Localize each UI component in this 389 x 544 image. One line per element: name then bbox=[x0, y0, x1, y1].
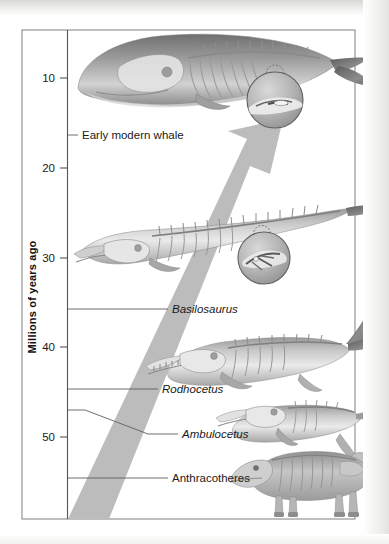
label-anthracotheres: Anthracotheres bbox=[172, 472, 250, 484]
basilosaurus-hindlimb-inset bbox=[238, 232, 290, 284]
axis-tick-label-50: 50 bbox=[42, 431, 55, 443]
whale-evolution-figure: 10 20 30 40 50 Millions of years ago bbox=[0, 0, 389, 544]
label-basilosaurus: Basilosaurus bbox=[172, 303, 238, 315]
axis-title: Millions of years ago bbox=[26, 240, 38, 353]
axis-tick-label-40: 40 bbox=[42, 341, 55, 353]
modern-whale-hindlimb-inset bbox=[247, 72, 304, 128]
label-ambulocetus: Ambulocetus bbox=[181, 428, 249, 440]
figure-canvas: 10 20 30 40 50 Millions of years ago bbox=[0, 0, 389, 544]
label-early-modern-whale: Early modern whale bbox=[82, 129, 184, 141]
axis-tick-label-30: 30 bbox=[42, 252, 55, 264]
label-rodhocetus: Rodhocetus bbox=[162, 383, 224, 395]
axis-tick-label-10: 10 bbox=[42, 72, 55, 84]
axis-tick-label-20: 20 bbox=[42, 162, 55, 174]
